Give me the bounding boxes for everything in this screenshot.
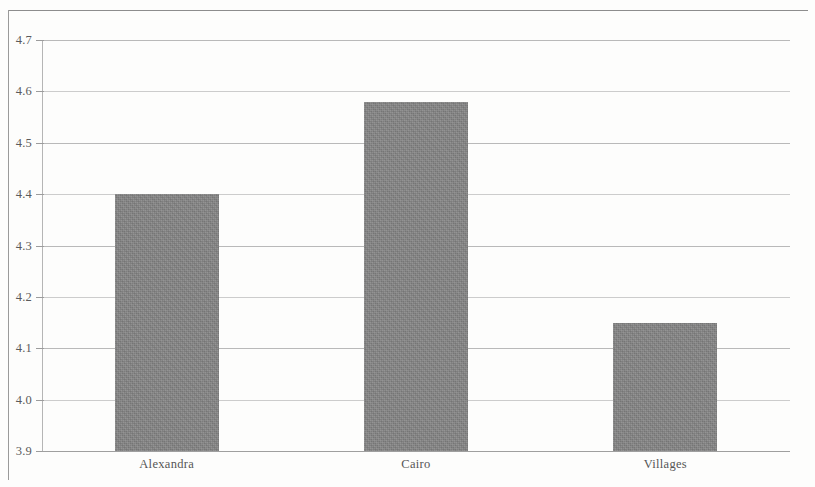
y-axis-tick-label: 4.2 [0, 291, 32, 304]
y-axis-tick-mark [36, 400, 44, 401]
gridline [42, 91, 790, 92]
bar-cairo [364, 102, 468, 451]
y-axis-tick-mark [36, 91, 44, 92]
gridline [42, 40, 790, 41]
x-axis-line [42, 451, 790, 452]
bar-villages [613, 323, 717, 451]
y-axis-tick-label: 3.9 [0, 445, 32, 458]
y-axis-tick-label: 4.7 [0, 34, 32, 47]
y-axis-tick-mark [36, 348, 44, 349]
y-axis-tick-mark [36, 297, 44, 298]
y-axis-tick-label: 4.6 [0, 85, 32, 98]
y-axis-tick-mark [36, 194, 44, 195]
bar-chart: 4.74.64.54.44.34.24.14.03.9 AlexandraCai… [0, 0, 815, 487]
x-axis-tick-label: Alexandra [42, 458, 291, 471]
y-axis-tick-label: 4.3 [0, 240, 32, 253]
y-axis-tick-label: 4.5 [0, 137, 32, 150]
y-axis-tick-mark [36, 143, 44, 144]
y-axis-tick-mark [36, 246, 44, 247]
y-axis-tick-label: 4.1 [0, 342, 32, 355]
y-axis-tick-label: 4.0 [0, 394, 32, 407]
y-axis-tick-mark [36, 40, 44, 41]
bar-alexandra [115, 194, 219, 451]
x-axis-tick-label: Villages [541, 458, 790, 471]
x-axis-tick-label: Cairo [291, 458, 540, 471]
y-axis-tick-label: 4.4 [0, 188, 32, 201]
